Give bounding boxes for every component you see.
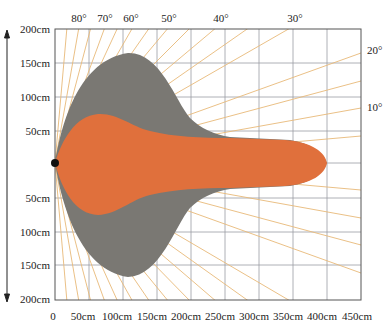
angle-label: 80° [71, 13, 86, 24]
x-tick-label: 450cm [342, 311, 372, 322]
y-tick-label: 150cm [20, 260, 50, 271]
angle-label: 50° [161, 13, 176, 24]
y-tick-label: 50cm [26, 126, 50, 137]
x-tick-label: 400cm [307, 311, 337, 322]
x-tick-label: 200cm [171, 311, 201, 322]
x-tick-label: 0 [50, 311, 56, 322]
angle-label: 20° [367, 45, 382, 56]
x-tick-label: 300cm [239, 311, 269, 322]
y-tick-label: 200cm [20, 294, 50, 305]
y-tick-label: 100cm [20, 92, 50, 103]
vertical-arrow-axis [5, 30, 10, 302]
x-tick-label: 150cm [137, 311, 167, 322]
x-tick-label: 250cm [205, 311, 235, 322]
chart-canvas [0, 0, 392, 336]
angle-label: 70° [97, 13, 112, 24]
x-tick-label: 100cm [102, 311, 132, 322]
angle-label: 60° [123, 13, 138, 24]
angle-label: 10° [367, 102, 382, 113]
y-tick-label: 50cm [26, 193, 50, 204]
origin-point [51, 159, 59, 167]
y-tick-label: 150cm [20, 58, 50, 69]
angle-label: 30° [287, 13, 302, 24]
y-tick-label: 200cm [20, 24, 50, 35]
x-tick-label: 50cm [71, 311, 95, 322]
y-tick-label: 100cm [20, 227, 50, 238]
angle-label: 40° [213, 13, 228, 24]
x-tick-label: 350cm [273, 311, 303, 322]
